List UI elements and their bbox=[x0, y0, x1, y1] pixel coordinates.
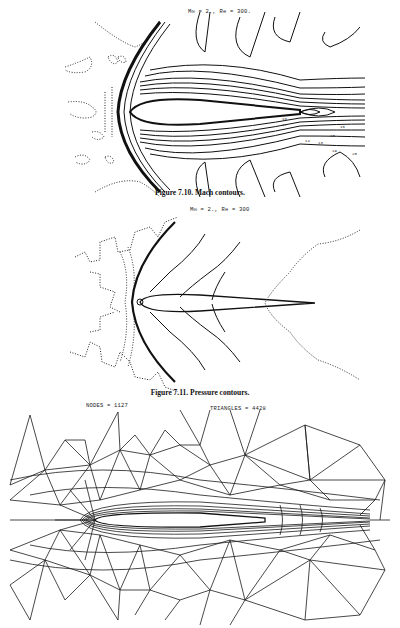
figure-7-11: M∞ = 2., Re = 300 Figure 7.11. Pressure … bbox=[0, 200, 400, 400]
svg-text:17: 17 bbox=[282, 123, 287, 127]
mach-contour-plot: 18 17 16 15 14 13 19 20 bbox=[0, 12, 400, 197]
pressure-contour-plot bbox=[0, 212, 400, 392]
svg-text:16: 16 bbox=[340, 125, 345, 129]
triangular-mesh bbox=[0, 410, 400, 628]
svg-text:13: 13 bbox=[318, 141, 323, 145]
figure-7-11-caption: Figure 7.11. Pressure contours. bbox=[0, 388, 400, 397]
svg-text:15: 15 bbox=[330, 134, 335, 138]
svg-text:19: 19 bbox=[332, 149, 337, 153]
nodes-count: NODES = 1127 bbox=[86, 402, 128, 409]
svg-text:20: 20 bbox=[352, 152, 357, 156]
mesh-figure: NODES = 1127 TRIANGLES = 4428 bbox=[0, 400, 400, 628]
svg-text:14: 14 bbox=[305, 139, 310, 143]
figure-7-10: M∞ = 2., Re = 300. bbox=[0, 0, 400, 200]
svg-text:18: 18 bbox=[282, 117, 287, 121]
figure-7-10-caption: Figure 7.10. Mach contours. bbox=[0, 188, 400, 197]
